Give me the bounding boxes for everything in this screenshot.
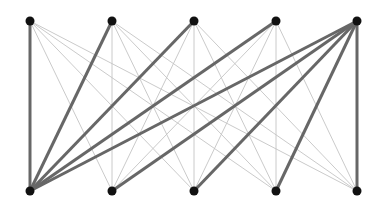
- node-b5: [353, 187, 362, 196]
- node-b2: [108, 187, 117, 196]
- node-t5: [353, 17, 362, 26]
- node-t1: [26, 17, 35, 26]
- node-b3: [190, 187, 199, 196]
- node-b4: [272, 187, 281, 196]
- node-t4: [272, 17, 281, 26]
- node-t3: [190, 17, 199, 26]
- node-b1: [26, 187, 35, 196]
- node-t2: [108, 17, 117, 26]
- bipartite-graph: [0, 0, 377, 211]
